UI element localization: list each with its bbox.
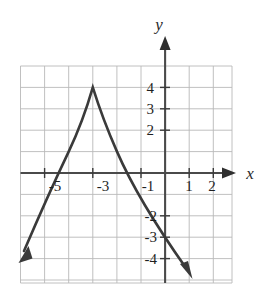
y-tick-label-neg2: -2 bbox=[145, 208, 158, 224]
x-axis-label: x bbox=[245, 164, 254, 183]
x-tick-label-neg3: -3 bbox=[97, 178, 110, 194]
x-tick-label-2: 2 bbox=[208, 178, 216, 194]
parabola-graph-figure: y x 4 3 2 -2 -3 -4 -5 -3 -1 1 2 bbox=[0, 0, 279, 289]
y-tick-label-neg3: -3 bbox=[145, 229, 158, 245]
y-tick-label-2: 2 bbox=[147, 122, 155, 138]
y-tick-label-4: 4 bbox=[147, 80, 155, 96]
y-axis-label: y bbox=[153, 15, 163, 34]
x-tick-label-neg5: -5 bbox=[49, 178, 62, 194]
y-tick-label-3: 3 bbox=[147, 101, 155, 117]
x-tick-label-1: 1 bbox=[185, 178, 193, 194]
figure-background bbox=[0, 0, 279, 289]
y-tick-label-neg4: -4 bbox=[145, 251, 158, 267]
x-tick-label-neg1: -1 bbox=[142, 178, 155, 194]
